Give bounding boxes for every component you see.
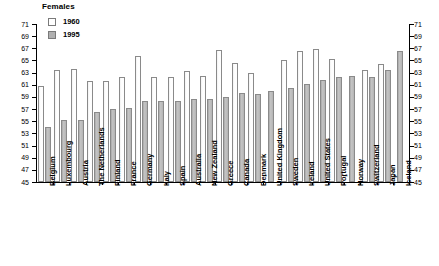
y-tick-left <box>32 73 36 74</box>
y-tick-label-left: 63 <box>11 69 29 76</box>
x-tick-label: Greece <box>226 161 235 186</box>
x-tick-label: United States <box>323 138 332 186</box>
y-tick-label-right: 53 <box>414 130 432 137</box>
y-tick-label-left: 45 <box>11 179 29 186</box>
bars-layer <box>37 24 409 182</box>
y-tick-label-right: 49 <box>414 154 432 161</box>
x-tick-label: Canada <box>242 159 251 186</box>
bar-1960 <box>168 77 174 182</box>
bar-1960 <box>38 86 44 182</box>
bar-1995 <box>158 101 164 182</box>
y-tick-label-right: 63 <box>414 69 432 76</box>
x-tick-label: Austria <box>81 160 90 186</box>
x-tick-label: Germany <box>145 153 154 186</box>
y-tick-label-left: 69 <box>11 33 29 40</box>
x-tick-label: Australia <box>194 154 203 186</box>
y-tick-label-right: 59 <box>414 93 432 100</box>
x-tick-label: Iceland <box>404 160 413 186</box>
x-tick-label: Luxembourg <box>64 141 73 186</box>
y-tick-label-right: 67 <box>414 45 432 52</box>
y-tick-label-right: 61 <box>414 81 432 88</box>
x-tick-label: The Netherlands <box>97 127 106 186</box>
y-tick-label-right: 71 <box>414 21 432 28</box>
x-tick-label: Spain <box>178 166 187 186</box>
y-tick-label-left: 59 <box>11 93 29 100</box>
y-tick-label-right: 51 <box>414 142 432 149</box>
y-tick-left <box>32 36 36 37</box>
y-tick-label-right: 55 <box>414 118 432 125</box>
y-tick-left <box>32 97 36 98</box>
bar-1995 <box>268 91 274 182</box>
y-tick-label-left: 65 <box>11 57 29 64</box>
y-tick-left <box>32 85 36 86</box>
bar-group <box>168 24 184 182</box>
x-tick-label: New Zealand <box>210 140 219 186</box>
y-tick-label-right: 69 <box>414 33 432 40</box>
y-tick-left <box>32 121 36 122</box>
y-tick-left <box>32 24 36 25</box>
y-tick-label-left: 71 <box>11 21 29 28</box>
asterisk-marker: * <box>264 173 267 181</box>
x-tick-label: Portugal <box>339 156 348 186</box>
bar-group <box>394 24 410 182</box>
chart-title: Females <box>42 2 75 11</box>
y-tick-label-right: 45 <box>414 179 432 186</box>
chart-container: Females 1960 1995 4545474749495151535355… <box>0 0 439 266</box>
x-tick-label: Italy <box>162 171 171 186</box>
y-tick-label-left: 53 <box>11 130 29 137</box>
asterisk-marker: * <box>345 173 348 181</box>
x-tick-label: United Kingdom <box>275 128 284 186</box>
y-tick-label-left: 47 <box>11 166 29 173</box>
y-tick-label-left: 61 <box>11 81 29 88</box>
y-tick-left <box>32 158 36 159</box>
x-tick-label: Sweden <box>291 158 300 186</box>
bar-1995 <box>349 76 355 182</box>
y-tick-left <box>32 133 36 134</box>
x-tick-label: Switzerland <box>372 144 381 186</box>
x-tick-label: Finland <box>113 159 122 186</box>
y-tick-label-right: 57 <box>414 106 432 113</box>
y-tick-left <box>32 182 36 183</box>
x-tick-label: Belgium <box>48 156 57 186</box>
x-tick-label: France <box>129 161 138 186</box>
y-tick-left <box>32 60 36 61</box>
y-tick-label-left: 51 <box>11 142 29 149</box>
x-tick-label: Denmark <box>259 154 268 186</box>
bar-1995 <box>397 51 403 182</box>
y-tick-label-right: 65 <box>414 57 432 64</box>
y-tick-left <box>32 48 36 49</box>
y-tick-left <box>32 109 36 110</box>
y-tick-left <box>32 170 36 171</box>
y-tick-label-right: 47 <box>414 166 432 173</box>
y-tick-left <box>32 146 36 147</box>
x-tick-label: Ireland <box>307 161 316 186</box>
asterisk-marker: * <box>393 173 396 181</box>
y-tick-label-left: 49 <box>11 154 29 161</box>
y-tick-label-left: 55 <box>11 118 29 125</box>
y-tick-label-left: 67 <box>11 45 29 52</box>
x-tick-label: Norway <box>356 159 365 186</box>
x-axis <box>36 182 410 183</box>
y-tick-label-left: 57 <box>11 106 29 113</box>
